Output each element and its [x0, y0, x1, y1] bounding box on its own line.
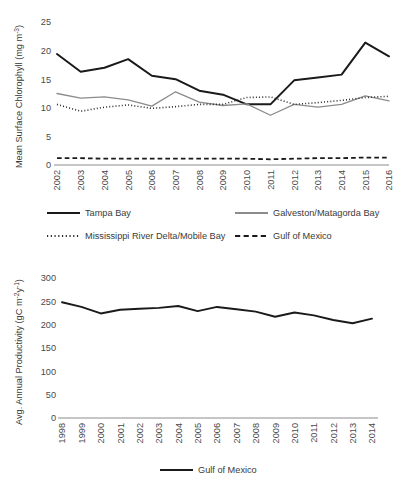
x-tick-label: 2003: [76, 170, 86, 190]
x-tick-label: 2002: [52, 170, 62, 190]
legend-label: Mississippi River Delta/Mobile Bay: [85, 231, 226, 241]
x-tick-label: 2015: [361, 170, 371, 190]
y-tick-label: 250: [41, 297, 56, 307]
x-tick-label: 2010: [290, 423, 300, 443]
x-tick-label: 2014: [367, 423, 377, 443]
x-tick-label: 2002: [135, 423, 145, 443]
legend-label: Galveston/Matagorda Bay: [273, 208, 380, 218]
y-tick-label: 25: [41, 17, 51, 27]
x-tick-label: 2007: [171, 170, 181, 190]
x-tick-label: 2005: [124, 170, 134, 190]
chart-panel-chlorophyll: Mean Surface Chlorophyll (mg m-3)0510152…: [0, 0, 398, 258]
y-axis-label-productivity: Avg. Annual Productivity (gC m-2y-1): [13, 279, 24, 425]
x-tick-label: 2013: [348, 423, 358, 443]
y-tick-label: 0: [46, 160, 51, 170]
chart-panel-productivity: Avg. Annual Productivity (gC m-2y-1)0501…: [0, 258, 398, 493]
series-line: [57, 158, 389, 160]
chlorophyll-line-chart: Mean Surface Chlorophyll (mg m-3)0510152…: [0, 0, 398, 258]
x-tick-label: 2001: [116, 423, 126, 443]
x-tick-label: 2011: [309, 423, 319, 443]
y-tick-label: 300: [41, 273, 56, 283]
x-tick-label: 2008: [195, 170, 205, 190]
x-tick-label: 2014: [337, 170, 347, 190]
x-tick-label: 2012: [329, 423, 339, 443]
series-line: [57, 43, 389, 105]
x-tick-label: 1998: [57, 423, 67, 443]
x-tick-label: 2007: [232, 423, 242, 443]
legend-item: Tampa Bay: [47, 208, 131, 218]
x-tick-label: 2013: [313, 170, 323, 190]
y-tick-label: 100: [41, 367, 56, 377]
y-tick-label: 200: [41, 320, 56, 330]
y-axis-label-tail: ): [14, 25, 24, 28]
x-tick-label: 2004: [100, 170, 110, 190]
legend-label: Gulf of Mexico: [198, 465, 257, 475]
legend-label: Gulf of Mexico: [273, 231, 332, 241]
x-tick-label: 2000: [96, 423, 106, 443]
series-line: [62, 302, 372, 323]
x-tick-label: 1999: [77, 423, 87, 443]
x-tick-label: 2006: [212, 423, 222, 443]
series-line: [57, 96, 389, 111]
y-tick-label: 10: [41, 103, 51, 113]
legend-item: Gulf of Mexico: [235, 231, 332, 241]
figure-root: Mean Surface Chlorophyll (mg m-3)0510152…: [0, 0, 398, 493]
legend-item: Galveston/Matagorda Bay: [235, 208, 380, 218]
x-tick-label: 2012: [290, 170, 300, 190]
y-tick-label: 150: [41, 343, 56, 353]
x-tick-label: 2008: [251, 423, 261, 443]
x-tick-label: 2005: [193, 423, 203, 443]
x-tick-label: 2009: [218, 170, 228, 190]
x-tick-label: 2011: [266, 170, 276, 190]
x-tick-label: 2009: [271, 423, 281, 443]
legend-label: Tampa Bay: [85, 208, 131, 218]
x-tick-label: 2003: [154, 423, 164, 443]
y-tick-label: 15: [41, 75, 51, 85]
y-tick-label: 50: [46, 390, 56, 400]
y-axis-label-tail: ): [14, 279, 24, 282]
y-tick-label: 0: [51, 413, 56, 423]
y-tick-label: 5: [46, 132, 51, 142]
y-axis-label-chlorophyll: Mean Surface Chlorophyll (mg m-3): [13, 25, 24, 168]
legend-item: Mississippi River Delta/Mobile Bay: [47, 231, 226, 241]
x-tick-label: 2006: [147, 170, 157, 190]
y-tick-label: 20: [41, 46, 51, 56]
productivity-line-chart: Avg. Annual Productivity (gC m-2y-1)0501…: [0, 258, 398, 493]
x-tick-label: 2004: [174, 423, 184, 443]
x-tick-label: 2016: [384, 170, 394, 190]
x-tick-label: 2010: [242, 170, 252, 190]
